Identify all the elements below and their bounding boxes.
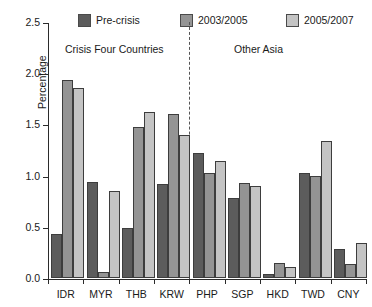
bar-thb-2003-2005 [133,127,144,278]
bar-group-thb [122,22,155,278]
bar-php-2003-2005 [204,173,215,278]
bar-php-pre-crisis [193,153,204,278]
bar-twd-2005-2007 [321,141,332,278]
bar-thb-pre-crisis [122,228,133,278]
bar-twd-2003-2005 [310,176,321,278]
y-tick-label: 0.5 [25,221,40,234]
bar-sgp-pre-crisis [228,198,239,278]
y-axis-title: Percentage [36,55,48,109]
x-tick-mark [295,279,296,284]
bar-myr-pre-crisis [87,182,98,278]
y-tick-label: 1.0 [25,170,40,183]
bar-myr-2003-2005 [98,272,109,278]
y-tick-label: 0.0 [25,272,40,285]
bar-group-php [193,22,226,278]
bar-group-myr [87,22,120,278]
bar-group-hkd [263,22,296,278]
x-tick-mark [189,279,190,284]
bar-group-twd [299,22,332,278]
x-tick-mark [154,279,155,284]
y-tick-mark [43,177,48,178]
y-tick-label: 2.5 [25,16,40,29]
bar-group-idr [51,22,84,278]
bar-idr-2005-2007 [73,88,84,278]
bar-php-2005-2007 [215,161,226,278]
bar-twd-pre-crisis [299,173,310,278]
y-tick-mark [43,228,48,229]
bar-sgp-2005-2007 [250,186,261,278]
bar-hkd-2003-2005 [274,263,285,278]
bar-myr-2005-2007 [109,191,120,278]
x-tick-mark [331,279,332,284]
y-axis-line [48,23,49,280]
bar-krw-pre-crisis [157,184,168,278]
y-tick-mark [43,74,48,75]
x-tick-mark [48,279,49,284]
bar-group-cny [334,22,367,278]
x-tick-mark [366,279,367,284]
bar-chart: Pre-crisis 2003/2005 2005/2007 Percentag… [0,0,372,307]
x-tick-mark [119,279,120,284]
y-tick-label: 1.5 [25,118,40,131]
bar-hkd-2005-2007 [285,267,296,278]
bar-hkd-pre-crisis [263,274,274,278]
bar-sgp-2003-2005 [239,183,250,278]
y-tick-mark [43,23,48,24]
x-tick-mark [260,279,261,284]
bar-cny-2005-2007 [356,243,367,278]
bar-krw-2003-2005 [168,114,179,278]
x-label-cny: CNY [325,287,371,301]
bar-group-krw [157,22,190,278]
plot-area: Percentage 0.00.51.01.52.02.5 Crisis Fou… [48,23,366,279]
bar-group-sgp [228,22,261,278]
y-tick-label: 2.0 [25,67,40,80]
bar-idr-2003-2005 [62,80,73,278]
bar-idr-pre-crisis [51,234,62,278]
bar-thb-2005-2007 [144,112,155,278]
y-tick-mark [43,125,48,126]
bar-cny-2003-2005 [345,264,356,278]
x-axis-line [48,279,366,280]
x-tick-mark [225,279,226,284]
bar-cny-pre-crisis [334,249,345,278]
x-tick-mark [83,279,84,284]
bar-krw-2005-2007 [179,135,190,278]
